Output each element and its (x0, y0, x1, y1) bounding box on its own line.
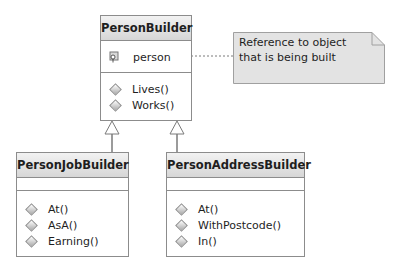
method-icon (25, 219, 38, 232)
class-person-builder[interactable]: PersonBuilder person Lives() Works() (100, 15, 192, 121)
fields-compartment: person (101, 41, 191, 73)
field-name: person (133, 51, 171, 64)
class-name: PersonBuilder (101, 16, 191, 41)
note[interactable]: Reference to object that is being built (233, 32, 385, 84)
method-row[interactable]: Earning() (17, 233, 128, 249)
method-icon (109, 99, 122, 112)
class-person-address-builder[interactable]: PersonAddressBuilder At() WithPostcode()… (166, 152, 305, 257)
method-row[interactable]: WithPostcode() (167, 217, 304, 233)
inheritance-arrow-address (170, 121, 184, 152)
method-icon (25, 203, 38, 216)
method-icon (175, 235, 188, 248)
method-name: At() (48, 203, 68, 216)
method-icon (25, 235, 38, 248)
method-name: At() (198, 203, 218, 216)
methods-compartment: At() WithPostcode() In() (167, 191, 304, 249)
inheritance-arrow-job (105, 121, 119, 152)
method-row[interactable]: In() (167, 233, 304, 249)
method-row[interactable]: Works() (101, 97, 191, 113)
methods-compartment: Lives() Works() (101, 73, 191, 113)
method-name: WithPostcode() (198, 219, 281, 232)
class-name: PersonJobBuilder (17, 153, 128, 178)
class-name: PersonAddressBuilder (167, 153, 304, 178)
method-row[interactable]: At() (167, 201, 304, 217)
method-name: Lives() (132, 83, 169, 96)
method-name: AsA() (48, 219, 77, 232)
method-name: Earning() (48, 235, 99, 248)
note-line-1: Reference to object (239, 35, 346, 50)
fields-compartment (17, 178, 128, 191)
note-line-2: that is being built (239, 50, 346, 65)
method-icon (175, 219, 188, 232)
class-person-job-builder[interactable]: PersonJobBuilder At() AsA() Earning() (16, 152, 129, 257)
method-icon (175, 203, 188, 216)
note-text: Reference to object that is being built (239, 35, 346, 65)
method-icon (109, 83, 122, 96)
field-icon (109, 51, 119, 63)
method-name: In() (198, 235, 217, 248)
fields-compartment (167, 178, 304, 191)
field-row[interactable]: person (101, 49, 191, 65)
method-row[interactable]: Lives() (101, 81, 191, 97)
method-row[interactable]: At() (17, 201, 128, 217)
method-name: Works() (132, 99, 174, 112)
method-row[interactable]: AsA() (17, 217, 128, 233)
methods-compartment: At() AsA() Earning() (17, 191, 128, 249)
